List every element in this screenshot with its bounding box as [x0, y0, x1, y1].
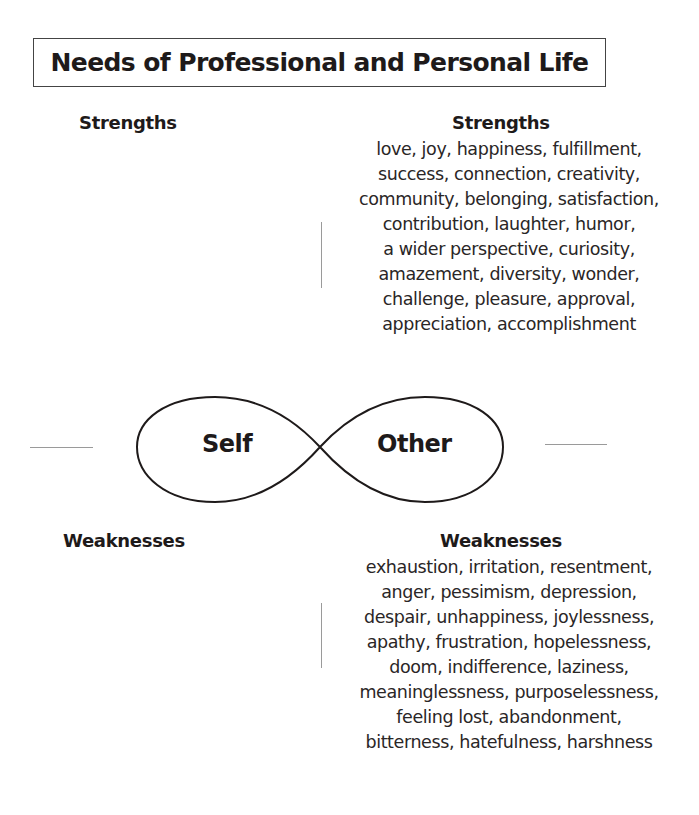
left-strengths-heading: Strengths: [79, 112, 177, 133]
infinity-loop-icon: [130, 390, 510, 510]
list-item: anger, pessimism, depression,: [339, 580, 679, 605]
list-item: community, belonging, satisfaction,: [339, 187, 679, 212]
list-item: exhaustion, irritation, resentment,: [339, 555, 679, 580]
left-dash-line: [30, 447, 93, 448]
list-item: meaninglessness, purposelessness,: [339, 680, 679, 705]
list-item: apathy, frustration, hopelessness,: [339, 630, 679, 655]
list-item: bitterness, hatefulness, harshness: [339, 730, 679, 755]
list-item: feeling lost, abandonment,: [339, 705, 679, 730]
title-box: Needs of Professional and Personal Life: [33, 38, 606, 87]
list-item: amazement, diversity, wonder,: [339, 262, 679, 287]
weaknesses-list: exhaustion, irritation, resentment, ange…: [339, 555, 679, 755]
list-item: success, connection, creativity,: [339, 162, 679, 187]
divider-line-bottom: [321, 603, 322, 668]
right-dash-line: [545, 444, 607, 445]
page-title: Needs of Professional and Personal Life: [51, 48, 589, 77]
other-label: Other: [377, 430, 452, 458]
list-item: love, joy, happiness, fulfillment,: [339, 137, 679, 162]
list-item: challenge, pleasure, approval,: [339, 287, 679, 312]
list-item: a wider perspective, curiosity,: [339, 237, 679, 262]
self-label: Self: [202, 430, 252, 458]
list-item: contribution, laughter, humor,: [339, 212, 679, 237]
list-item: doom, indifference, laziness,: [339, 655, 679, 680]
divider-line-top: [321, 222, 322, 288]
strengths-list: love, joy, happiness, fulfillment, succe…: [339, 137, 679, 337]
list-item: despair, unhappiness, joylessness,: [339, 605, 679, 630]
right-weaknesses-heading: Weaknesses: [440, 530, 562, 551]
list-item: appreciation, accomplishment: [339, 312, 679, 337]
right-strengths-heading: Strengths: [452, 112, 550, 133]
left-weaknesses-heading: Weaknesses: [63, 530, 185, 551]
infinity-diagram: Self Other: [130, 390, 510, 510]
